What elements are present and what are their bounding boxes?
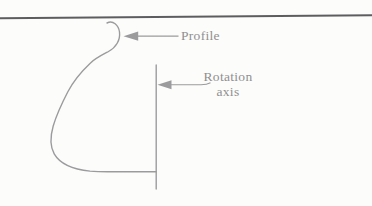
profile-curve [51, 22, 156, 172]
top-rule-line [0, 15, 372, 18]
surface-of-revolution-figure: Profile Rotation axis [0, 0, 372, 206]
rotation-axis-label-line2: axis [197, 85, 259, 100]
profile-arrowhead-icon [124, 32, 139, 41]
rotation-axis-label-line1: Rotation [197, 70, 259, 85]
rotation-axis-label: Rotation axis [197, 70, 259, 99]
profile-arrow [124, 32, 179, 41]
profile-label: Profile [181, 29, 220, 44]
rotation-axis-arrowhead-icon [158, 80, 172, 89]
